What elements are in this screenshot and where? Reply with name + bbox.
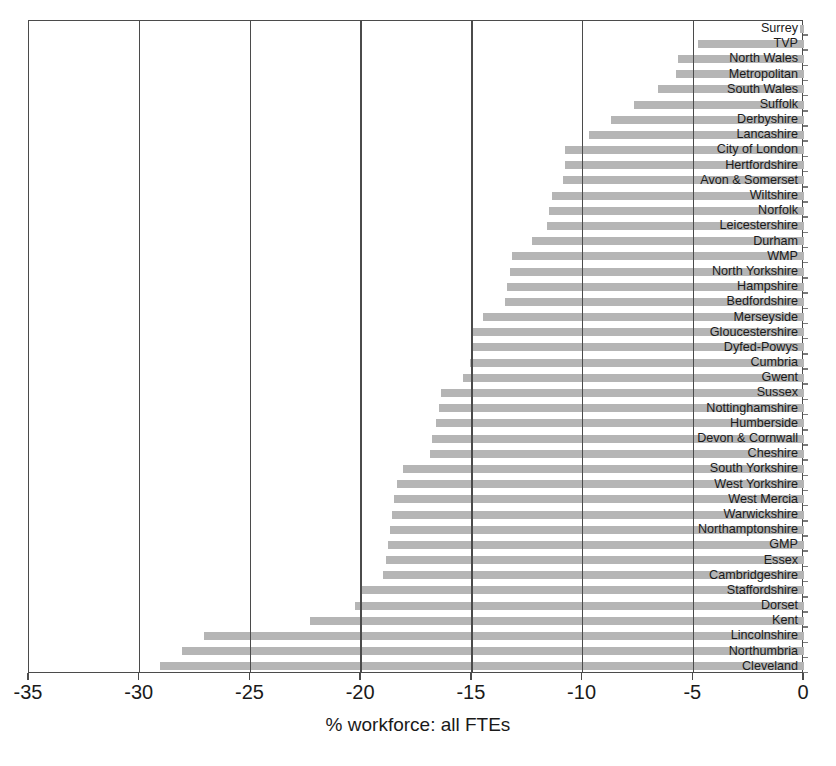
- x-tick-label: -15: [456, 681, 485, 704]
- chart-page: SurreyTVPNorth WalesMetropolitanSouth Wa…: [0, 0, 836, 766]
- y-axis-minor-tick: [803, 383, 808, 385]
- y-axis-minor-tick: [803, 475, 808, 477]
- y-axis-minor-tick: [803, 186, 808, 188]
- category-label: Lincolnshire: [731, 628, 798, 643]
- bar: [310, 617, 804, 625]
- y-axis-minor-tick: [803, 505, 808, 507]
- bar-row: Lincolnshire: [29, 628, 802, 643]
- category-label: Derbyshire: [737, 112, 798, 127]
- bar-row: Lancashire: [29, 127, 802, 142]
- bar: [355, 602, 805, 610]
- bar: [204, 632, 804, 640]
- bar-row: North Wales: [29, 51, 802, 66]
- y-axis-minor-tick: [803, 535, 808, 537]
- bar-row: West Mercia: [29, 492, 802, 507]
- y-axis-minor-tick: [803, 201, 808, 203]
- bar-row: South Wales: [29, 82, 802, 97]
- y-axis-minor-tick: [803, 626, 808, 628]
- category-label: Metropolitan: [729, 67, 798, 82]
- category-label: Devon & Cornwall: [697, 431, 798, 446]
- category-label: GMP: [769, 537, 798, 552]
- y-axis-minor-tick: [803, 444, 808, 446]
- bar-row: Sussex: [29, 385, 802, 400]
- y-axis-minor-tick: [803, 262, 808, 264]
- y-axis-minor-tick: [803, 34, 808, 36]
- y-axis-minor-tick: [803, 550, 808, 552]
- category-label: Avon & Somerset: [700, 173, 798, 188]
- y-axis-minor-tick: [803, 399, 808, 401]
- bar-row: Norfolk: [29, 203, 802, 218]
- y-axis-minor-tick: [803, 247, 808, 249]
- bar: [160, 662, 804, 670]
- gridline--20: [360, 21, 362, 672]
- bar-row: Northamptonshire: [29, 522, 802, 537]
- bar-row: Avon & Somerset: [29, 173, 802, 188]
- y-axis-minor-tick: [803, 308, 808, 310]
- y-axis-minor-tick: [803, 353, 808, 355]
- category-label: Warwickshire: [724, 507, 798, 522]
- x-tick--30: [138, 673, 140, 680]
- category-label: WMP: [767, 249, 798, 264]
- y-axis-minor-tick: [803, 49, 808, 51]
- x-tick--20: [359, 673, 361, 680]
- bar-row: Nottinghamshire: [29, 401, 802, 416]
- bar-row: Devon & Cornwall: [29, 431, 802, 446]
- category-label: Merseyside: [734, 310, 798, 325]
- x-tick-label: -30: [124, 681, 153, 704]
- category-label: Humberside: [730, 416, 798, 431]
- bar-row: Metropolitan: [29, 67, 802, 82]
- bar-row: Essex: [29, 553, 802, 568]
- bar-row: Cleveland: [29, 659, 802, 674]
- category-label: Cheshire: [748, 446, 798, 461]
- gridline--30: [139, 21, 141, 672]
- y-axis-minor-tick: [803, 672, 808, 674]
- category-label: Northamptonshire: [698, 522, 798, 537]
- y-axis-minor-tick: [803, 323, 808, 325]
- gridline--5: [693, 21, 695, 672]
- category-label: Cambridgeshire: [709, 568, 798, 583]
- gridline--25: [250, 21, 252, 672]
- y-axis-minor-tick: [803, 566, 808, 568]
- bar-row: Merseyside: [29, 310, 802, 325]
- x-tick--15: [470, 673, 472, 680]
- category-label: Surrey: [761, 21, 798, 36]
- category-label: Lancashire: [736, 127, 798, 142]
- category-label: Cleveland: [742, 659, 798, 674]
- gridline--10: [582, 21, 584, 672]
- bar-row: Cheshire: [29, 446, 802, 461]
- category-label: West Mercia: [728, 492, 798, 507]
- bar: [182, 647, 804, 655]
- category-label: Hertfordshire: [725, 158, 798, 173]
- category-label: Essex: [764, 553, 798, 568]
- bar-row: TVP: [29, 36, 802, 51]
- y-axis-minor-tick: [803, 171, 808, 173]
- category-label: Sussex: [757, 385, 798, 400]
- y-axis-minor-tick: [803, 642, 808, 644]
- bar-row: Northumbria: [29, 644, 802, 659]
- x-tick--25: [249, 673, 251, 680]
- bar-row: Hampshire: [29, 279, 802, 294]
- y-axis-minor-tick: [803, 657, 808, 659]
- bar: [800, 25, 804, 33]
- category-label: Durham: [753, 234, 798, 249]
- category-label: Northumbria: [729, 644, 798, 659]
- category-label: Gloucestershire: [710, 325, 798, 340]
- bar-row: Dorset: [29, 598, 802, 613]
- y-axis-minor-tick: [803, 156, 808, 158]
- bar-row: Leicestershire: [29, 218, 802, 233]
- bar-row: Cumbria: [29, 355, 802, 370]
- category-label: Dorset: [761, 598, 798, 613]
- x-tick--10: [581, 673, 583, 680]
- y-axis-minor-tick: [803, 490, 808, 492]
- y-axis-minor-tick: [803, 581, 808, 583]
- category-label: South Yorkshire: [710, 461, 798, 476]
- category-label: Bedfordshire: [727, 294, 798, 309]
- category-label: South Wales: [727, 82, 798, 97]
- category-label: Leicestershire: [720, 218, 798, 233]
- bar-row: Cambridgeshire: [29, 568, 802, 583]
- y-axis-minor-tick: [803, 65, 808, 67]
- bar-row: Kent: [29, 613, 802, 628]
- y-axis-minor-tick: [803, 232, 808, 234]
- category-label: Hampshire: [737, 279, 798, 294]
- category-label: Cumbria: [750, 355, 798, 370]
